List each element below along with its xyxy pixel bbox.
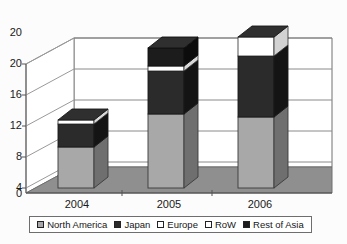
legend-label-europe: Europe	[167, 220, 198, 230]
legend-item-north-america[interactable]: North America	[37, 220, 107, 230]
x-tick-label-2006: 2006	[237, 199, 283, 210]
bar-segment-2004-north-america[interactable]	[58, 147, 94, 188]
y-tick-label-0: 0	[0, 188, 22, 199]
legend-swatch-row-icon	[205, 221, 212, 228]
chart-legend: North America Japan Europe RoW Rest of A…	[29, 216, 312, 233]
legend-swatch-japan-icon	[114, 221, 121, 228]
x-tick-label-2005: 2005	[146, 199, 192, 210]
bar-segment-2005-north-america[interactable]	[148, 114, 184, 188]
legend-item-europe[interactable]: Europe	[157, 220, 198, 230]
bar-group-2006[interactable]	[238, 26, 288, 188]
y-tick-label-12: 12	[0, 120, 22, 131]
bar-segment-2005-europe[interactable]	[148, 66, 184, 71]
bar-side-2005-north-america	[184, 103, 198, 188]
legend-label-north-america: North America	[47, 220, 107, 230]
legend-label-japan: Japan	[124, 220, 150, 230]
chart-container: 20 16 12 8 4 20 0 2004 2005 2006 North A…	[0, 0, 347, 244]
bar-group-2004[interactable]	[58, 109, 108, 188]
bar-segment-2006-europe[interactable]	[238, 37, 274, 56]
bar-segment-2005-japan[interactable]	[148, 71, 184, 114]
bar-side-2006-japan	[274, 45, 288, 117]
legend-item-row[interactable]: RoW	[205, 220, 236, 230]
y-tick-label-20: 20	[0, 58, 22, 69]
x-tick-label-2004: 2004	[54, 199, 100, 210]
bar-segment-2004-japan[interactable]	[58, 124, 94, 147]
y-tick-label-16: 16	[0, 89, 22, 100]
bar-group-2005[interactable]	[148, 37, 198, 188]
legend-item-japan[interactable]: Japan	[114, 220, 150, 230]
legend-swatch-europe-icon	[157, 221, 164, 228]
bar-segment-2004-europe[interactable]	[58, 120, 94, 124]
y-tick-label-top: 20	[0, 27, 22, 38]
back-wall	[74, 38, 332, 167]
bar-side-2006-north-america	[274, 106, 288, 188]
bar-segment-2006-north-america[interactable]	[238, 117, 274, 188]
bar-segment-2006-japan[interactable]	[238, 56, 274, 117]
y-tick-label-8: 8	[0, 151, 22, 162]
bar-segment-2005-rest-of-asia[interactable]	[148, 48, 184, 66]
legend-item-rest-of-asia[interactable]: Rest of Asia	[243, 220, 304, 230]
legend-label-rest-of-asia: Rest of Asia	[253, 220, 304, 230]
legend-swatch-north-america-icon	[37, 221, 44, 228]
legend-swatch-rest-of-asia-icon	[243, 221, 250, 228]
legend-label-row: RoW	[215, 220, 236, 230]
